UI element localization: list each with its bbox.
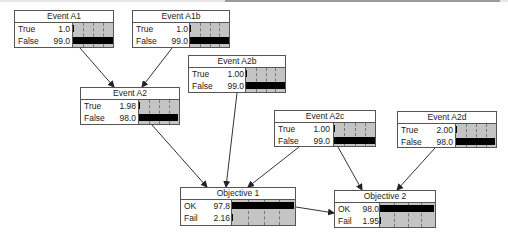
state-value: 98.0 bbox=[429, 137, 453, 149]
node-title: Event A1 bbox=[15, 11, 113, 23]
node-states: True1.00False99.0 bbox=[189, 68, 245, 92]
state-row-true: True1.00 bbox=[278, 124, 333, 136]
node-title: Event A2b bbox=[189, 56, 285, 68]
state-label: OK bbox=[184, 201, 206, 213]
node-body: True1.00False99.0 bbox=[189, 68, 285, 92]
probability-bars bbox=[72, 23, 113, 47]
node-body: True1.0False99.0 bbox=[15, 23, 113, 47]
node-a1[interactable]: Event A1 True1.0False99.0 bbox=[14, 10, 114, 48]
probability-bars bbox=[189, 23, 229, 47]
probability-bar-false bbox=[73, 37, 113, 44]
probability-bar-fail bbox=[232, 214, 233, 221]
edge-a2-to-o1 bbox=[152, 125, 207, 187]
node-title: Event A2c bbox=[275, 111, 375, 123]
probability-bars bbox=[231, 200, 295, 225]
node-title: Event A1b bbox=[133, 11, 229, 23]
probability-bar-ok bbox=[232, 202, 294, 209]
node-a1b[interactable]: Event A1b True1.0False99.0 bbox=[132, 10, 230, 48]
state-row-false: False99.0 bbox=[136, 36, 189, 48]
node-title: Event A2 bbox=[81, 88, 179, 100]
state-row-true: True1.0 bbox=[18, 24, 72, 36]
state-label: False bbox=[18, 36, 46, 48]
probability-bar-fail bbox=[380, 217, 381, 224]
probability-bar-false bbox=[190, 37, 229, 44]
state-value: 1.0 bbox=[164, 24, 188, 36]
node-title: Objective 1 bbox=[181, 188, 295, 200]
node-o1[interactable]: Objective 1 OK97.8Fail2.16 bbox=[180, 187, 296, 226]
edge-o1-to-o2 bbox=[296, 207, 334, 213]
state-row-true: True1.0 bbox=[136, 24, 189, 36]
probability-bar-false bbox=[139, 114, 178, 121]
state-value: 1.0 bbox=[46, 24, 70, 36]
node-title: Objective 2 bbox=[335, 191, 435, 203]
state-label: True bbox=[18, 24, 46, 36]
probability-bars bbox=[379, 203, 435, 227]
probability-bars bbox=[138, 100, 179, 124]
node-a2c[interactable]: Event A2c True1.00False99.0 bbox=[274, 110, 376, 147]
state-label: True bbox=[84, 101, 112, 113]
state-label: False bbox=[278, 136, 306, 148]
state-label: Fail bbox=[184, 213, 206, 225]
edge-a2d-to-o2 bbox=[397, 148, 435, 190]
probability-bar-true bbox=[456, 126, 457, 133]
state-label: True bbox=[401, 125, 429, 137]
node-states: True2.00False98.0 bbox=[398, 124, 455, 147]
node-states: True1.0False99.0 bbox=[133, 23, 189, 47]
state-row-false: False99.0 bbox=[278, 136, 333, 148]
state-value: 1.98 bbox=[112, 101, 136, 113]
probability-bar-true bbox=[139, 102, 140, 109]
state-row-true: True2.00 bbox=[401, 125, 455, 137]
edge-a2c-to-o2 bbox=[338, 147, 362, 190]
node-a2d[interactable]: Event A2d True2.00False98.0 bbox=[397, 111, 497, 148]
state-value: 1.00 bbox=[306, 124, 330, 136]
node-body: True1.00False99.0 bbox=[275, 123, 375, 146]
state-row-fail: Fail2.16 bbox=[184, 213, 231, 225]
state-row-ok: OK98.0 bbox=[338, 204, 379, 216]
state-value: 99.0 bbox=[164, 36, 188, 48]
state-label: False bbox=[84, 113, 112, 125]
edge-a2b-to-o1 bbox=[226, 93, 237, 187]
state-label: True bbox=[278, 124, 306, 136]
state-row-ok: OK97.8 bbox=[184, 201, 231, 213]
node-a2[interactable]: Event A2 True1.98False98.0 bbox=[80, 87, 180, 125]
probability-bar-false bbox=[334, 137, 375, 144]
state-row-false: False98.0 bbox=[84, 113, 138, 125]
node-body: OK98.0Fail1.95 bbox=[335, 203, 435, 227]
node-title: Event A2d bbox=[398, 112, 496, 124]
probability-bar-false bbox=[246, 82, 285, 89]
state-label: True bbox=[136, 24, 164, 36]
node-states: OK98.0Fail1.95 bbox=[335, 203, 379, 227]
probability-bars bbox=[245, 68, 285, 92]
state-value: 1.00 bbox=[220, 69, 244, 81]
state-label: Fail bbox=[338, 216, 358, 228]
node-states: True1.00False99.0 bbox=[275, 123, 333, 146]
state-value: 99.0 bbox=[306, 136, 330, 148]
state-value: 2.00 bbox=[429, 125, 453, 137]
state-row-false: False98.0 bbox=[401, 137, 455, 149]
probability-bar-false bbox=[456, 138, 495, 145]
state-value: 99.0 bbox=[220, 81, 244, 93]
state-row-true: True1.98 bbox=[84, 101, 138, 113]
edge-a1b-to-a2 bbox=[142, 48, 172, 87]
edge-a2c-to-o1 bbox=[248, 147, 299, 187]
node-body: True2.00False98.0 bbox=[398, 124, 496, 147]
node-o2[interactable]: Objective 2 OK98.0Fail1.95 bbox=[334, 190, 436, 228]
state-label: False bbox=[401, 137, 429, 149]
state-label: False bbox=[192, 81, 220, 93]
state-value: 1.95 bbox=[358, 216, 379, 228]
node-states: True1.0False99.0 bbox=[15, 23, 72, 47]
state-label: True bbox=[192, 69, 220, 81]
node-body: OK97.8Fail2.16 bbox=[181, 200, 295, 225]
edge-a1-to-a2 bbox=[80, 48, 114, 87]
node-a2b[interactable]: Event A2b True1.00False99.0 bbox=[188, 55, 286, 93]
probability-bar-ok bbox=[380, 205, 434, 212]
node-states: OK97.8Fail2.16 bbox=[181, 200, 231, 225]
node-states: True1.98False98.0 bbox=[81, 100, 138, 124]
probability-bars bbox=[333, 123, 375, 146]
state-row-false: False99.0 bbox=[18, 36, 72, 48]
state-row-true: True1.00 bbox=[192, 69, 245, 81]
state-label: OK bbox=[338, 204, 358, 216]
node-body: True1.0False99.0 bbox=[133, 23, 229, 47]
state-value: 98.0 bbox=[112, 113, 136, 125]
probability-bars bbox=[455, 124, 496, 147]
